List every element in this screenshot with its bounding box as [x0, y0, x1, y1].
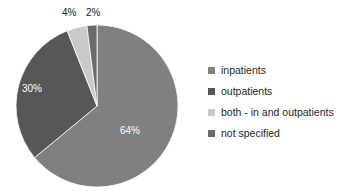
- legend-item-inpatients: inpatients: [208, 60, 353, 80]
- chart-legend: inpatients outpatients both - in and out…: [208, 60, 353, 144]
- legend-swatch-icon-outpatients: [208, 88, 215, 95]
- slice-value-label-not-specified: 2%: [86, 8, 100, 18]
- pie-slices-group: [16, 25, 178, 187]
- legend-item-outpatients: outpatients: [208, 81, 353, 101]
- slice-value-label-both: 4%: [62, 8, 76, 18]
- legend-label-not-specified: not specified: [221, 127, 280, 139]
- legend-swatch-icon-not-specified: [208, 130, 215, 137]
- legend-label-both: both - in and outpatients: [221, 106, 334, 118]
- legend-swatch-icon-inpatients: [208, 67, 215, 74]
- legend-item-not-specified: not specified: [208, 123, 353, 143]
- legend-swatch-icon-both: [208, 109, 215, 116]
- slice-value-label-inpatients: 64%: [120, 126, 140, 136]
- slice-value-label-outpatients: 30%: [22, 84, 42, 94]
- legend-label-inpatients: inpatients: [221, 64, 266, 76]
- pie-chart-graphic: [0, 0, 200, 191]
- pie-chart-figure: 64% 30% 4% 2% inpatients outpatients bot…: [0, 0, 353, 191]
- legend-item-both: both - in and outpatients: [208, 102, 353, 122]
- legend-label-outpatients: outpatients: [221, 85, 272, 97]
